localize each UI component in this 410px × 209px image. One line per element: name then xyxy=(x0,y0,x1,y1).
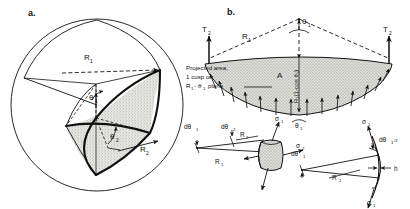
R2-ray-c xyxy=(197,140,264,148)
label-dtheta1-half-base: dθ xyxy=(379,136,387,143)
label-R1-b-sub: 1 xyxy=(248,37,251,43)
R1-ray-upper-d xyxy=(302,155,379,170)
figure-canvas: a. R 1 xyxy=(0,0,410,209)
label-dtheta1-c: dθ 1 xyxy=(184,123,199,132)
label-sigma2-c-base: σ xyxy=(296,142,300,149)
R1-ray-c xyxy=(197,148,265,152)
label-dtheta2-c: dθ 2 xyxy=(221,123,236,132)
dtheta2-tick-c xyxy=(230,136,234,147)
label-T2-right-base: T xyxy=(383,25,388,34)
dtheta1-half-arrow-d xyxy=(372,143,373,149)
label-R1-c-sub: 1 xyxy=(221,162,224,167)
label-area-A: A xyxy=(277,71,283,80)
callout-line-3: R 1 - θ 1 plane xyxy=(186,82,224,91)
label-sigma1-top-base: σ xyxy=(362,118,366,125)
label-theta1-a-sub: 1 xyxy=(95,98,98,104)
label-R2-c-base: R xyxy=(240,131,245,138)
label-sigma1-top-sub: 1 xyxy=(368,122,371,127)
label-theta1-apex-base: θ xyxy=(302,17,307,26)
sigma2-arrow-opposite-c xyxy=(244,156,259,159)
label-R1-d-sub: 1 xyxy=(339,178,342,183)
label-T2-right-sub: 2 xyxy=(389,30,392,36)
label-dtheta1-half-d: dθ 1 /2 xyxy=(379,136,398,145)
figure-root: a. R 1 xyxy=(0,0,410,209)
label-sagitta: R₁(1-cos θ₁) xyxy=(292,70,299,103)
label-R2-a-sub: 2 xyxy=(146,150,149,156)
panel-c: dθ 1 dθ 2 R 1 R 2 σ 1 σ 2 xyxy=(184,115,305,190)
label-theta1-a-base: θ xyxy=(89,93,94,102)
sigma1-arrow-c xyxy=(272,122,279,141)
label-R1-d-base: R xyxy=(332,174,337,181)
label-sigma1-c-sub: 1 xyxy=(281,119,284,124)
label-T2-right: T 2 xyxy=(383,25,392,36)
label-dtheta1-c-base: dθ xyxy=(184,123,192,130)
panel-d: dθ 1 dθ 1 /2 R 1 h σ 1 σ 1 xyxy=(291,118,398,208)
label-dtheta1-c-sub: 1 xyxy=(196,127,199,132)
callout-line-2: 1 cusp on xyxy=(186,73,213,80)
label-dtheta1-half-suffix: /2 xyxy=(394,138,398,143)
R1-dashed-right xyxy=(299,19,388,58)
label-theta2-a-sub: 2 xyxy=(116,137,119,143)
R1-dashed-left xyxy=(210,19,299,58)
panel-a: a. R 1 xyxy=(11,8,183,191)
label-theta1-apex-sub: 1 xyxy=(308,22,311,28)
theta1-apex-arc xyxy=(289,30,309,33)
sigma1-arrow-top-d xyxy=(368,126,374,146)
callout-line-3-theta: θ xyxy=(198,82,202,89)
label-dtheta1-d-base: dθ xyxy=(291,150,299,157)
label-theta1-bottom: θ 1 xyxy=(295,122,303,131)
callout-line-3-dash: - xyxy=(194,82,196,89)
panel-a-letter: a. xyxy=(28,8,36,18)
label-R1-b: R 1 xyxy=(242,32,251,43)
label-R1-c: R 1 xyxy=(215,158,224,167)
panel-b-letter: b. xyxy=(227,7,235,17)
label-T2-left: T 2 xyxy=(202,25,211,36)
label-theta1-bottom-base: θ xyxy=(295,122,299,129)
sigma1-arrow-opposite-c xyxy=(262,168,268,190)
label-dtheta2-c-base: dθ xyxy=(221,123,229,130)
panel-b: b. xyxy=(186,7,392,131)
callout-line-1: Projected area, xyxy=(186,64,228,71)
label-R1-c-base: R xyxy=(215,158,220,165)
label-R1-a-sub: 1 xyxy=(90,58,93,64)
callout-line-3-sub2: 1 xyxy=(203,86,206,91)
label-sigma1-c-base: σ xyxy=(275,115,279,122)
label-sigma1-bottom-base: σ xyxy=(367,199,371,206)
label-sigma1-c: σ 1 xyxy=(275,115,284,124)
R1-ray-lower-d xyxy=(302,170,379,178)
label-h-d: h xyxy=(394,165,398,172)
label-dtheta1-d-sub: 1 xyxy=(303,154,306,159)
callout-line-3-suffix: plane xyxy=(208,82,224,89)
label-dtheta2-c-sub: 2 xyxy=(233,127,236,132)
label-sigma1-bottom-sub: 1 xyxy=(373,203,376,208)
label-T2-left-sub: 2 xyxy=(208,30,211,36)
shell-arc-inner-d xyxy=(375,147,381,188)
label-theta2-a-base: θ xyxy=(110,132,115,141)
shell-arc-outer-d xyxy=(372,136,379,198)
label-sigma2-c-sub: 2 xyxy=(302,146,305,151)
label-sigma1-top-d: σ 1 xyxy=(362,118,371,127)
label-theta1-bottom-sub: 1 xyxy=(300,126,303,131)
label-T2-left-base: T xyxy=(202,25,207,34)
